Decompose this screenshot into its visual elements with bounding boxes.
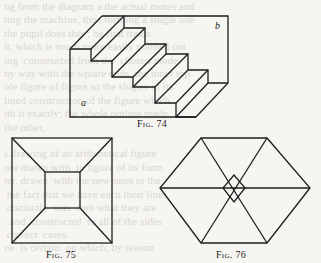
figures-canvas [0,0,321,263]
fig74-label-b: b [215,20,220,31]
fig74-staircase [70,16,228,117]
fig74-caption: Fig. 74 [137,118,167,129]
fig76-caption: Fig. 76 [216,249,246,260]
fig74-label-a: a [81,97,86,108]
fig76-hexagon [160,138,310,243]
fig75-square [12,138,112,243]
fig75-caption: Fig. 75 [46,249,76,260]
